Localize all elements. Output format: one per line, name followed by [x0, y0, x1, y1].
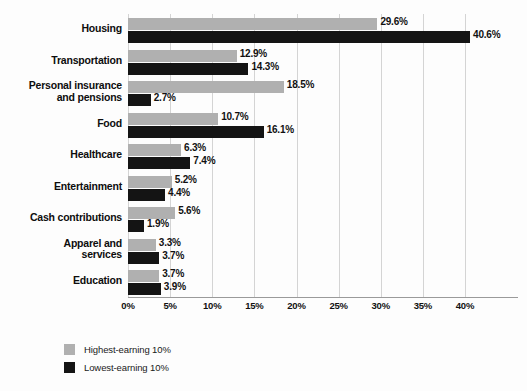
bar-high: [128, 270, 159, 282]
bar-low: [128, 252, 159, 264]
bar-low: [128, 31, 470, 43]
bar-high: [128, 18, 377, 30]
category-label-line: Cash contributions: [4, 212, 122, 224]
bar-value-label: 5.6%: [178, 205, 200, 216]
bar-high: [128, 113, 218, 125]
x-axis-tick-labels: 0%5%10%15%20%25%30%35%40%: [128, 300, 465, 314]
bar-group: 18.5%2.7%: [128, 77, 465, 109]
bar-value-label: 40.6%: [473, 29, 500, 40]
bar-group: 29.6%40.6%: [128, 14, 465, 46]
x-tick-label: 40%: [456, 300, 474, 311]
bar-group: 5.6%1.9%: [128, 203, 465, 235]
category-label-line: Education: [4, 275, 122, 287]
x-tick-label: 10%: [203, 300, 221, 311]
expenditure-share-bar-chart: 29.6%40.6%12.9%14.3%18.5%2.7%10.7%16.1%6…: [0, 0, 527, 391]
bar-low: [128, 220, 144, 232]
category-label: Transportation: [4, 55, 122, 67]
bar-value-label: 1.9%: [147, 218, 169, 229]
bar-group: 3.3%3.7%: [128, 235, 465, 267]
legend-label: Lowest-earning 10%: [84, 362, 169, 373]
legend-item[interactable]: Lowest-earning 10%: [64, 358, 171, 376]
bar-group: 6.3%7.4%: [128, 140, 465, 172]
category-label-line: services: [4, 249, 122, 261]
category-label-line: and pensions: [4, 92, 122, 104]
x-tick-label: 5%: [163, 300, 176, 311]
x-tick-label: 15%: [245, 300, 263, 311]
bar-value-label: 14.3%: [251, 61, 278, 72]
bar-value-label: 12.9%: [240, 48, 267, 59]
bar-low: [128, 157, 190, 169]
category-label: Apparel andservices: [4, 238, 122, 261]
x-tick-label: 20%: [287, 300, 305, 311]
category-label: Cash contributions: [4, 212, 122, 224]
x-tick-label: 35%: [414, 300, 432, 311]
bar-group: 10.7%16.1%: [128, 109, 465, 141]
x-tick-label: 30%: [372, 300, 390, 311]
x-tick-label: 0%: [121, 300, 134, 311]
plot-area: 29.6%40.6%12.9%14.3%18.5%2.7%10.7%16.1%6…: [128, 14, 465, 298]
legend-swatch: [64, 362, 75, 373]
category-label-line: Healthcare: [4, 149, 122, 161]
category-label: Entertainment: [4, 181, 122, 193]
bar-value-label: 7.4%: [193, 155, 215, 166]
x-axis-line: [128, 297, 518, 298]
bar-high: [128, 144, 181, 156]
bar-value-label: 3.9%: [164, 281, 186, 292]
bar-value-label: 6.3%: [184, 142, 206, 153]
legend-label: Highest-earning 10%: [84, 344, 171, 355]
bar-low: [128, 126, 264, 138]
category-label: Personal insuranceand pensions: [4, 80, 122, 103]
category-label: Housing: [4, 23, 122, 35]
category-label-line: Transportation: [4, 55, 122, 67]
category-label-line: Food: [4, 118, 122, 130]
x-tick-label: 25%: [329, 300, 347, 311]
category-axis-labels: HousingTransportationPersonal insurancea…: [0, 14, 122, 298]
bar-value-label: 10.7%: [221, 111, 248, 122]
bar-low: [128, 283, 161, 295]
gridline: [465, 14, 466, 298]
bar-high: [128, 176, 172, 188]
bar-low: [128, 94, 151, 106]
bar-high: [128, 239, 156, 251]
category-label-line: Housing: [4, 23, 122, 35]
bar-value-label: 29.6%: [380, 16, 407, 27]
category-label: Food: [4, 118, 122, 130]
legend-swatch: [64, 344, 75, 355]
bar-high: [128, 81, 284, 93]
category-label-line: Entertainment: [4, 181, 122, 193]
bar-value-label: 2.7%: [154, 92, 176, 103]
bar-low: [128, 63, 248, 75]
bar-value-label: 5.2%: [175, 174, 197, 185]
bar-value-label: 4.4%: [168, 187, 190, 198]
bar-value-label: 16.1%: [267, 124, 294, 135]
chart-legend: Highest-earning 10%Lowest-earning 10%: [64, 340, 171, 376]
bar-value-label: 18.5%: [287, 79, 314, 90]
bar-high: [128, 50, 237, 62]
legend-item[interactable]: Highest-earning 10%: [64, 340, 171, 358]
bar-group: 5.2%4.4%: [128, 172, 465, 204]
category-label: Healthcare: [4, 149, 122, 161]
bar-value-label: 3.7%: [162, 250, 184, 261]
bar-value-label: 3.7%: [162, 268, 184, 279]
category-label: Education: [4, 275, 122, 287]
bar-low: [128, 189, 165, 201]
bar-value-label: 3.3%: [159, 237, 181, 248]
bar-group: 12.9%14.3%: [128, 46, 465, 78]
bar-group: 3.7%3.9%: [128, 266, 465, 298]
